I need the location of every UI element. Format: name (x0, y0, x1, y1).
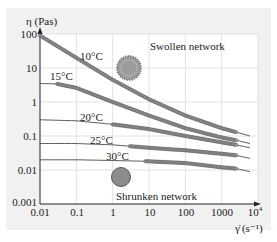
y-axis-title: η (Pas) (26, 15, 57, 28)
y-tick-10: 10 (26, 62, 38, 74)
y-tick-0.01: 0.01 (18, 164, 37, 176)
x-tick-0.01: 0.01 (30, 206, 49, 218)
shrunken-network-label: Shrunken network (116, 190, 197, 202)
label-25c: 25°C (90, 134, 113, 146)
label-30c: 30°C (106, 150, 129, 162)
swollen-network-label: Swollen network (150, 40, 225, 52)
y-tick-1: 1 (32, 96, 38, 108)
label-15c: 15°C (50, 70, 73, 82)
x-axis-title: γ̇(s⁻¹) (234, 222, 263, 235)
x-tick-1000: 1000 (211, 206, 234, 218)
label-20c: 20°C (80, 111, 103, 123)
x-tick-1: 1 (110, 206, 116, 218)
label-10c: 10°C (80, 50, 103, 62)
y-tick-100: 100 (21, 28, 38, 40)
viscosity-chart: η (Pas) 100 10 1 0.1 0.01 0.001 0.01 0.1… (0, 0, 277, 242)
x-tick-100: 100 (178, 206, 195, 218)
x-tick-10000: 104 (248, 205, 263, 218)
x-tick-labels: 0.01 0.1 1 10 100 1000 104 (30, 205, 262, 218)
y-tick-labels: 100 10 1 0.1 0.01 0.001 (12, 28, 37, 208)
swollen-network-icon (117, 56, 141, 80)
y-tick-0.1: 0.1 (23, 130, 37, 142)
x-tick-0.1: 0.1 (70, 206, 84, 218)
y-axis-arrow-icon (38, 27, 43, 34)
shrunken-network-icon (112, 168, 131, 187)
x-tick-10: 10 (145, 206, 157, 218)
